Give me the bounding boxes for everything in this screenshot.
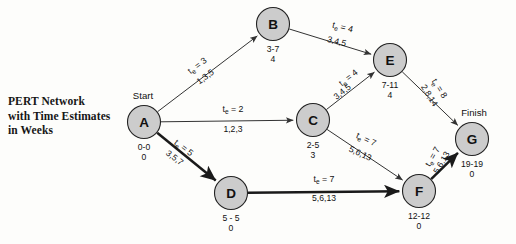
network-canvas: A0-00StartB3-74C2-53D5 - 50E7-114F12-120… — [0, 0, 516, 244]
pert-network-figure: PERT Network with Time Estimates in Week… — [0, 0, 516, 244]
edge-label-estimates-c-f: 5,6,13 — [347, 144, 373, 163]
node-c[interactable]: C2-53 — [297, 104, 330, 161]
node-times-a: 0-0 — [138, 142, 151, 152]
node-label-f: F — [415, 184, 423, 199]
finish-label: Finish — [461, 107, 487, 118]
node-label-d: D — [226, 186, 236, 201]
node-g[interactable]: G19-190Finish — [456, 107, 489, 180]
node-times-g: 19-19 — [461, 159, 483, 169]
edge-label-estimates-d-f: 5,6,13 — [312, 193, 336, 203]
node-b[interactable]: B3-74 — [257, 8, 290, 65]
node-slack-e: 4 — [388, 90, 393, 100]
node-slack-f: 0 — [417, 221, 422, 231]
edge-a-to-c — [161, 120, 293, 122]
edge-label-estimates-b-e: 3,4,5 — [326, 34, 347, 48]
node-times-c: 2-5 — [307, 140, 320, 150]
edge-label-te-d-f: te = 7 — [313, 174, 334, 185]
node-slack-c: 3 — [311, 150, 316, 160]
node-label-b: B — [268, 17, 278, 32]
node-times-f: 12-12 — [408, 211, 430, 221]
node-label-c: C — [308, 113, 318, 128]
node-e[interactable]: E7-114 — [374, 44, 407, 101]
edge-label-estimates-c-e: 3,4,5 — [332, 82, 353, 102]
start-label: Start — [133, 90, 154, 101]
node-times-e: 7-11 — [382, 80, 399, 90]
node-a[interactable]: A0-00Start — [128, 90, 161, 163]
node-slack-a: 0 — [142, 152, 147, 162]
node-slack-b: 4 — [271, 54, 276, 64]
node-f[interactable]: F12-120 — [403, 175, 436, 232]
edge-label-te-b-e: te = 4 — [331, 20, 354, 36]
nodes-layer: A0-00StartB3-74C2-53D5 - 50E7-114F12-120… — [128, 8, 489, 234]
node-times-d: 5 - 5 — [222, 213, 239, 223]
node-label-e: E — [385, 53, 394, 68]
node-slack-g: 0 — [470, 169, 475, 179]
node-slack-d: 0 — [229, 223, 234, 233]
edge-label-estimates-a-c: 1,2,3 — [223, 124, 242, 134]
edge-label-te-a-c: te = 2 — [222, 104, 243, 115]
node-label-a: A — [139, 115, 149, 130]
node-d[interactable]: D5 - 50 — [215, 177, 248, 234]
node-times-b: 3-7 — [267, 44, 280, 54]
node-label-g: G — [467, 132, 478, 147]
